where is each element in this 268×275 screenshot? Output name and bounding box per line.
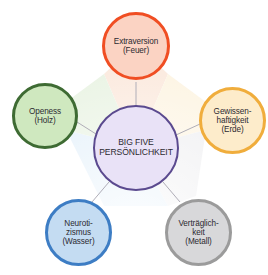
node-neurotizismus[interactable]: Neuroti- zismus (Wasser) (45, 199, 112, 266)
node-vertraeglichkeit[interactable]: Verträglich- keit (Metall) (165, 199, 232, 266)
node-vertraeglichkeit-label: Verträglich- keit (Metall) (176, 219, 220, 247)
node-gewissenhaftigkeit-label: Gewissen- haftigkeit (Erde) (212, 107, 254, 135)
node-neurotizismus-label: Neuroti- zismus (Wasser) (60, 219, 96, 247)
node-openess-label: Openess (Holz) (27, 107, 63, 125)
node-openess[interactable]: Openess (Holz) (12, 83, 78, 149)
node-gewissenhaftigkeit[interactable]: Gewissen- haftigkeit (Erde) (199, 87, 266, 154)
node-extraversion[interactable]: Extraversion (Feuer) (102, 12, 170, 80)
node-big-five-hub-label: BIG FIVE PERSÖNLICHKEIT (97, 138, 175, 157)
big-five-diagram: Extraversion (Feuer) Gewissen- haftigkei… (0, 0, 268, 275)
node-big-five-hub[interactable]: BIG FIVE PERSÖNLICHKEIT (93, 105, 179, 191)
node-extraversion-label: Extraversion (Feuer) (112, 37, 160, 55)
